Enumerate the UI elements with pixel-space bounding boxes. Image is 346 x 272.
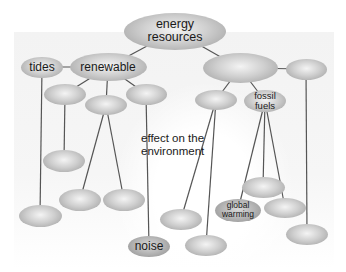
node-leaf-d xyxy=(19,205,62,227)
node-label: renewable xyxy=(80,61,135,74)
annotation-effect-on-environment: effect on the environment xyxy=(141,132,204,157)
node-leaf-h xyxy=(160,209,202,230)
node-tides: tides xyxy=(21,57,63,78)
node-renewable: renewable xyxy=(70,53,147,81)
node-leaf-b xyxy=(59,189,101,211)
node-leaf-a xyxy=(43,150,85,172)
link-fossil-leaf-e xyxy=(263,101,265,187)
node-noise: noise xyxy=(128,236,170,257)
node-right-branch xyxy=(286,59,327,80)
node-energy: energy resources xyxy=(124,13,226,50)
concept-map-canvas: energy resourcesrenewabletidesfossil fue… xyxy=(0,0,346,272)
node-nonren-child-1 xyxy=(195,90,237,110)
node-ren-child-2 xyxy=(85,95,127,115)
node-ren-child-1 xyxy=(44,84,86,105)
node-global-warming: global warming xyxy=(215,199,261,222)
node-leaf-e xyxy=(242,177,285,198)
link-tides-leaf-d xyxy=(40,67,42,216)
link-ren-child-2-leaf-c xyxy=(106,105,124,200)
node-label: energy resources xyxy=(148,18,203,44)
node-leaf-g xyxy=(286,224,328,245)
node-leaf-i xyxy=(185,235,227,256)
link-ren-child-3-noise xyxy=(146,94,149,246)
node-label: fossil fuels xyxy=(254,91,276,111)
node-label: noise xyxy=(135,240,164,253)
link-nonren-child-1-leaf-i xyxy=(206,100,216,245)
node-ren-child-3 xyxy=(126,84,167,105)
node-leaf-c xyxy=(103,189,145,211)
node-label: tides xyxy=(29,61,54,74)
node-leaf-f xyxy=(264,198,306,218)
link-right-branch-leaf-g xyxy=(306,69,307,234)
link-ren-child-2-leaf-b xyxy=(80,105,106,200)
link-nonren-child-1-leaf-h xyxy=(181,100,216,219)
node-fossil: fossil fuels xyxy=(244,90,286,112)
node-label: global warming xyxy=(222,201,254,219)
node-nonrenewable xyxy=(203,53,278,83)
